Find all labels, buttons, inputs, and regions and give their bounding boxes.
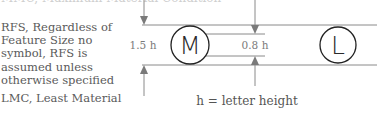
lmc-symbol-letter: L — [331, 31, 345, 60]
letter-height-note: h = letter height — [196, 94, 298, 108]
inner-dimension-top-arrow-icon — [251, 0, 259, 34]
mmc-symbol-letter: M — [179, 31, 201, 60]
mmc-symbol-icon: M — [171, 26, 209, 64]
inner-dimension-label: 0.8 h — [242, 39, 269, 51]
outer-dimension-label: 1.5 h — [130, 39, 157, 51]
inner-dimension-bottom-arrow-icon — [251, 56, 259, 86]
outer-dimension-bottom-arrow-icon — [140, 65, 148, 96]
symbol-size-diagram: 1.5 h 0.8 h M L h = letter height — [0, 0, 377, 118]
outer-dimension-top-arrow-icon — [140, 0, 148, 25]
lmc-symbol-icon: L — [320, 27, 356, 63]
